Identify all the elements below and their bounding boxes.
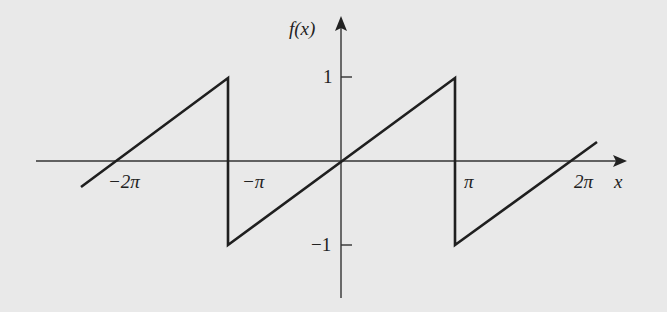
sawtooth-plot bbox=[0, 0, 667, 312]
x-tick-label-2pi: 2π bbox=[574, 172, 593, 191]
plot-area: f(x) x −2π −π π 2π 1 −1 bbox=[0, 0, 667, 312]
y-tick-label-1: 1 bbox=[323, 67, 333, 86]
y-tick-label-neg1: −1 bbox=[311, 235, 331, 254]
y-axis-label: f(x) bbox=[289, 19, 315, 38]
x-axis-label: x bbox=[614, 172, 622, 191]
x-tick-label-negpi: −π bbox=[242, 172, 264, 191]
x-tick-label-neg2pi: −2π bbox=[108, 172, 140, 191]
x-tick-label-pi: π bbox=[464, 172, 474, 191]
